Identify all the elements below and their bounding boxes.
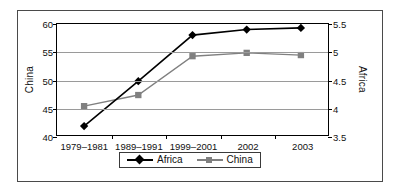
gridline — [57, 109, 328, 110]
legend-diamond-icon — [127, 155, 153, 165]
left-axis-tickmark — [53, 24, 57, 25]
x-axis-tick-label: 1999–2001 — [170, 141, 218, 152]
legend-square-icon — [197, 155, 223, 165]
x-axis-tickmark — [166, 135, 167, 139]
right-axis-title: Africa — [354, 23, 370, 136]
left-axis-tick-label: 50 — [42, 75, 53, 86]
left-axis-tick-label: 45 — [42, 103, 53, 114]
right-axis-tickmark — [328, 52, 332, 53]
x-axis-tick-label: 2002 — [238, 141, 259, 152]
x-axis-tickmark — [112, 135, 113, 139]
left-axis-tickmark — [53, 137, 57, 138]
x-axis-tick-label: 1989–1991 — [115, 141, 163, 152]
right-axis-tick-label: 4 — [333, 103, 338, 114]
right-axis-tickmark — [328, 81, 332, 82]
x-axis-tickmark — [275, 135, 276, 139]
right-axis-tickmark — [328, 109, 332, 110]
data-point-africa-3 — [243, 25, 251, 33]
right-axis-tickmark — [328, 137, 332, 138]
chart-legend: AfricaChina — [119, 152, 261, 168]
left-axis-tickmark — [53, 109, 57, 110]
right-axis-tickmark — [328, 24, 332, 25]
left-axis-title-text: China — [24, 66, 35, 93]
right-axis-tick-label: 5.5 — [333, 19, 346, 30]
gridline — [57, 52, 328, 53]
series-line-africa — [84, 28, 301, 126]
plot-area: 60555045405.554.543.51979–19811989–19911… — [56, 23, 329, 136]
data-point-africa-4 — [297, 24, 305, 32]
legend-label: China — [227, 154, 253, 165]
left-axis-tick-label: 40 — [42, 132, 53, 143]
left-axis-tickmark — [53, 52, 57, 53]
left-axis-tickmark — [53, 81, 57, 82]
data-point-china-1 — [135, 92, 141, 98]
right-axis-tick-label: 4.5 — [333, 75, 346, 86]
left-axis-title: China — [22, 23, 36, 136]
series-layer — [57, 24, 328, 135]
legend-label: Africa — [157, 154, 183, 165]
legend-item-china[interactable]: China — [197, 154, 253, 165]
right-axis-title-text: Africa — [357, 66, 368, 93]
left-axis-tick-label: 55 — [42, 47, 53, 58]
right-axis-tick-label: 5 — [333, 47, 338, 58]
legend-item-africa[interactable]: Africa — [127, 154, 183, 165]
x-axis-tick-label: 1979–1981 — [61, 141, 109, 152]
x-axis-tickmark — [221, 135, 222, 139]
left-axis-tick-label: 60 — [42, 19, 53, 30]
right-axis-tick-label: 3.5 — [333, 132, 346, 143]
x-axis-tick-label: 2003 — [292, 141, 313, 152]
gridline — [57, 81, 328, 82]
data-point-china-2 — [189, 53, 195, 59]
figure: China Africa 60555045405.554.543.51979–1… — [0, 0, 400, 194]
